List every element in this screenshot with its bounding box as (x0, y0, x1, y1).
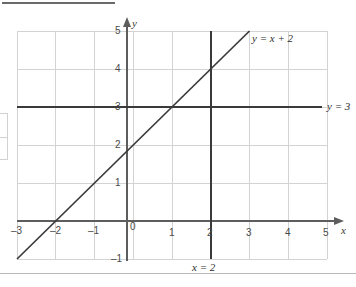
gridlines (17, 31, 327, 259)
ytick-label-4: 4 (115, 64, 121, 74)
coordinate-graph: –3 –2 –1 0 1 2 3 4 5 5 4 3 2 1 –1 y x y … (0, 0, 356, 287)
xtick-label--1: –1 (88, 226, 99, 236)
xtick-label-5: 5 (323, 228, 329, 238)
label-line-y-equals-3: y = 3 (327, 101, 350, 112)
y-axis-label: y (132, 18, 137, 29)
xtick-label--2: –2 (50, 226, 61, 236)
label-line-y-equals-x-plus-2: y = x + 2 (252, 33, 293, 44)
x-axis-label: x (341, 225, 346, 236)
ytick-label-5: 5 (115, 26, 121, 36)
xtick-label-2: 2 (207, 228, 213, 238)
xtick-label-1: 1 (169, 228, 175, 238)
xtick-label-0: 0 (130, 222, 136, 232)
ytick-label--1: –1 (111, 254, 122, 264)
ytick-label-2: 2 (115, 140, 121, 150)
graph-canvas (0, 0, 356, 287)
xtick-label-3: 3 (246, 228, 252, 238)
label-line-x-equals-2: x = 2 (192, 262, 215, 273)
xtick-label-4: 4 (285, 228, 291, 238)
y-axis-arrowhead (123, 17, 131, 27)
ytick-label-3: 3 (115, 102, 121, 112)
xtick-label--3: –3 (11, 226, 22, 236)
ytick-label-1: 1 (115, 178, 121, 188)
